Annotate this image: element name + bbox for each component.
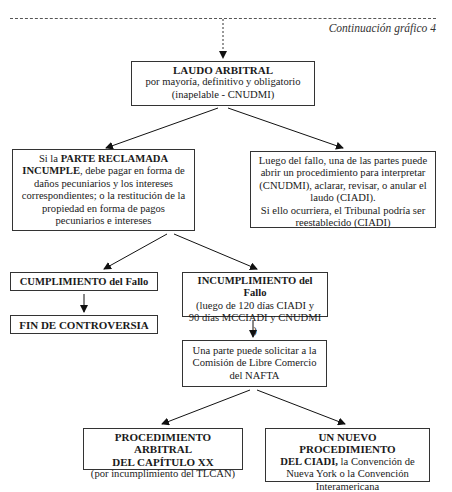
fin-title: FIN DE CONTROVERSIA	[19, 319, 149, 331]
laudo-line1: por mayoría, definitivo y obligatorio	[135, 76, 311, 88]
nuevo-ciadi-box: UN NUEVO PROCEDIMIENTO DEL CIADI, la Con…	[265, 428, 430, 482]
laudo-line2: (inapelable - CNUDMI)	[135, 89, 311, 101]
nuevo-bold2: DEL CIADI,	[280, 456, 338, 467]
capitulo-title2: DEL CAPÍTULO XX	[87, 456, 239, 468]
parte-reclamada-box: Si la PARTE RECLAMADA INCUMPLE, debe pag…	[12, 149, 195, 231]
incumplimiento-line1: (luego de 120 días CIADI y	[186, 300, 324, 312]
parte-reclamada-pre: Si la	[39, 153, 61, 164]
laudo-arbitral-box: LAUDO ARBITRAL por mayoría, definitivo y…	[131, 61, 315, 106]
cumplimiento-bold: CUMPLIMIENTO	[20, 276, 107, 287]
luego-del-fallo-box: Luego del fallo, una de las partes puede…	[250, 151, 436, 228]
nuevo-bold1: UN NUEVO PROCEDIMIENTO	[272, 431, 423, 456]
incumplimiento-bold: INCUMPLIMIENTO	[198, 275, 297, 286]
cumplimiento-box: CUMPLIMIENTO del Fallo	[10, 272, 158, 291]
cumplimiento-rest: del Fallo	[107, 276, 149, 287]
incumplimiento-box: INCUMPLIMIENTO del Fallo (luego de 120 d…	[182, 272, 328, 317]
incumplimiento-line2: 90 días MCCIADI y CNUDMI )	[186, 312, 324, 337]
luego-del-fallo-text2: Si ello ocurriera, el Tribunal podría se…	[256, 205, 430, 230]
capitulo-xx-box: PROCEDIMIENTO ARBITRAL DEL CAPÍTULO XX (…	[83, 428, 243, 470]
capitulo-line: (por incumplimiento del TLCAN)	[87, 468, 239, 480]
laudo-title: LAUDO ARBITRAL	[135, 64, 311, 76]
fin-de-controversia-box: FIN DE CONTROVERSIA	[10, 315, 158, 334]
luego-del-fallo-text: Luego del fallo, una de las partes puede…	[256, 155, 430, 205]
capitulo-title1: PROCEDIMIENTO ARBITRAL	[87, 431, 239, 456]
comision-libre-comercio-box: Una parte puede solicitar a la Comisión …	[182, 340, 327, 387]
comision-text: Una parte puede solicitar a la Comisión …	[189, 345, 320, 382]
